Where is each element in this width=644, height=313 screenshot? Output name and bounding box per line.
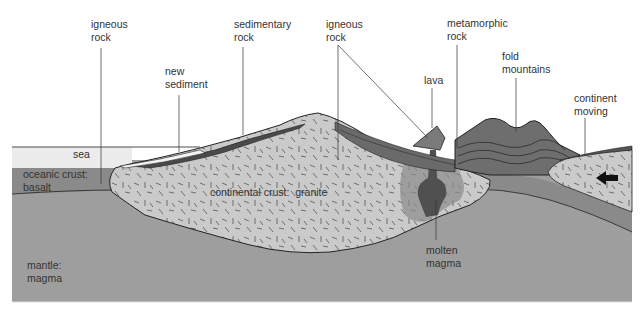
label-igneous-rock-left: igneous rock	[91, 18, 128, 44]
label-new-sediment: new sediment	[165, 65, 208, 91]
label-continent-moving: continent moving	[574, 92, 617, 118]
label-lava: lava	[424, 74, 443, 87]
label-sedimentary-rock: sedimentary rock	[234, 18, 291, 44]
label-fold-mountains: fold mountains	[502, 50, 550, 76]
label-mantle: mantle: magma	[27, 259, 62, 285]
label-sea: sea	[73, 148, 90, 161]
label-continental-crust: continental crust: granite	[210, 186, 327, 199]
label-molten-magma: molten magma	[426, 244, 461, 270]
label-metamorphic-rock: metamorphic rock	[447, 17, 508, 43]
sea	[12, 147, 132, 169]
cross-section-diagram	[0, 0, 644, 313]
label-oceanic-crust: oceanic crust: basalt	[23, 168, 88, 194]
label-igneous-rock-right: igneous rock	[326, 18, 363, 44]
lava-volcano	[413, 126, 445, 150]
